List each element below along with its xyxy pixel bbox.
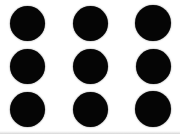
bottom-edge-band	[0, 131, 180, 134]
dot-r2-c3	[136, 49, 171, 84]
dot-r2-c1	[10, 49, 45, 84]
dot-grid-image: Nine solid black circles arranged in a t…	[0, 0, 180, 134]
dot-r2-c2	[73, 49, 108, 84]
dot-r3-c3	[135, 91, 171, 127]
dot-r1-c3	[135, 5, 171, 41]
dot-r1-c2	[73, 6, 108, 41]
dot-r3-c2	[73, 92, 108, 127]
dot-r1-c1	[10, 6, 45, 41]
dot-r3-c1	[10, 92, 45, 127]
